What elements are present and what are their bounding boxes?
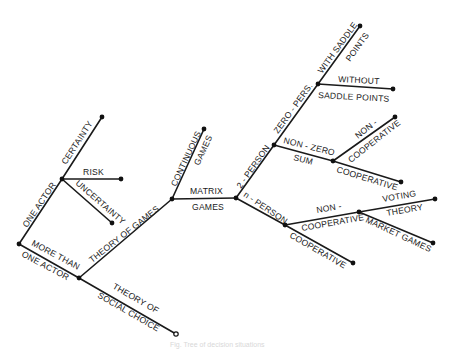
node-theory_of_games xyxy=(170,197,175,202)
decision-tree-diagram: ONE ACTOR CERTAINTY RISK UNCERTAINTY MOR… xyxy=(0,0,453,350)
label-n-person: n - PERSON xyxy=(242,189,290,226)
label-matrix: MATRIX xyxy=(190,186,223,196)
label-certainty: CERTAINTY xyxy=(59,119,94,166)
figure-caption: Fig. Tree of decision situations xyxy=(170,341,265,349)
label-matrix-games: GAMES xyxy=(192,202,224,212)
tree-labels: ONE ACTOR CERTAINTY RISK UNCERTAINTY MOR… xyxy=(20,20,433,334)
label-n-non: NON - xyxy=(316,201,343,215)
node-matrix_games xyxy=(234,196,239,201)
node-continuous_games xyxy=(202,127,207,132)
node-root xyxy=(17,242,22,247)
label-risk: RISK xyxy=(83,167,104,177)
node-more_than_one xyxy=(77,276,82,281)
label-n-cooperative: COOPERATIVE xyxy=(301,212,365,233)
label-zero-pers: ZERO - PERS. xyxy=(272,81,315,135)
edge-theory_of_games-to-matrix_games xyxy=(172,198,236,199)
node-zero_sum xyxy=(316,82,321,87)
node-non_zero_sum xyxy=(331,159,336,164)
label-without: WITHOUT xyxy=(338,74,381,86)
label-market-games: MARKET GAMES xyxy=(364,215,433,254)
node-without_saddle xyxy=(391,87,396,92)
node-n_coop xyxy=(351,261,356,266)
node-two_person xyxy=(272,143,277,148)
edge-two_person-to-zero_sum xyxy=(274,84,318,145)
node-voting_theory xyxy=(433,197,438,202)
label-theory-of-games: THEORY OF GAMES xyxy=(87,204,161,265)
label-uncertainty: UNCERTAINTY xyxy=(74,178,128,227)
label-2-person: 2 - PERSON xyxy=(234,143,271,190)
label-one-actor: ONE ACTOR xyxy=(20,180,58,229)
node-certainty xyxy=(100,115,105,120)
node-one_actor xyxy=(60,177,65,182)
label-theory: THEORY xyxy=(386,202,424,218)
node-social_choice xyxy=(174,332,178,336)
node-risk xyxy=(119,177,124,182)
node-uncertainty xyxy=(110,221,115,226)
label-voting: VOTING xyxy=(382,188,417,204)
label-n-coop: COOPERATIVE xyxy=(288,230,348,271)
label-saddle-points: SADDLE POINTS xyxy=(318,90,390,104)
